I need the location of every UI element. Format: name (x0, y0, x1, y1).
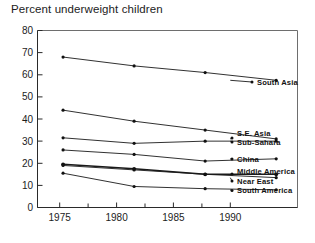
leader-dot-middle-america (231, 173, 234, 176)
data-point (204, 159, 207, 162)
leader-dot-sub-sahara (231, 141, 234, 144)
y-tick-label-20: 20 (22, 158, 34, 169)
data-point (204, 173, 207, 176)
line-chart-plot: 0 10 20 30 40 50 60 70 80 1975 1980 1985… (0, 0, 315, 243)
leader-line-south-asia (230, 80, 252, 82)
data-point (61, 109, 64, 112)
leader-dot-south-america (231, 189, 234, 192)
series-line (63, 57, 276, 80)
series-label-south-america: South America (237, 186, 293, 195)
data-point (61, 148, 64, 151)
leader-dot-south-asia (251, 81, 254, 84)
series-label-china: China (237, 155, 259, 164)
y-tick-label-30: 30 (22, 136, 34, 147)
data-point (61, 55, 64, 58)
y-axis-tick-labels: 0 10 20 30 40 50 60 70 80 (22, 25, 34, 213)
series-south-asia (61, 55, 277, 81)
data-point (204, 71, 207, 74)
leader-dot-se-asia (231, 137, 234, 140)
series-label-middle-america: Middle America (237, 167, 296, 176)
leader-dot-china (231, 157, 234, 160)
data-point (133, 120, 136, 123)
series-label-sub-sahara: Sub-Sahara (237, 138, 281, 147)
series-label-south-asia: South Asia (257, 78, 299, 87)
y-tick-label-50: 50 (22, 91, 34, 102)
data-point (133, 142, 136, 145)
x-axis-ticks (60, 203, 231, 208)
y-tick-label-40: 40 (22, 114, 34, 125)
data-point (61, 136, 64, 139)
data-point (133, 168, 136, 171)
x-tick-label-1985: 1985 (162, 212, 185, 223)
data-point (133, 153, 136, 156)
y-tick-label-60: 60 (22, 69, 34, 80)
data-point (133, 185, 136, 188)
data-point (204, 187, 207, 190)
data-point (133, 64, 136, 67)
x-tick-label-1975: 1975 (49, 212, 72, 223)
y-axis-ticks (38, 31, 43, 208)
y-tick-label-80: 80 (22, 25, 34, 36)
data-point (61, 172, 64, 175)
chart-container: Percent underweight children 0 10 20 30 … (0, 0, 315, 243)
series-annotations: South Asia S.E. Asia Sub-Sahara China Mi… (230, 78, 298, 196)
x-tick-label-1990: 1990 (219, 212, 242, 223)
data-point (275, 176, 278, 179)
x-axis-tick-labels: 1975 1980 1985 1990 (49, 212, 242, 223)
y-tick-label-0: 0 (27, 202, 33, 213)
x-tick-label-1980: 1980 (105, 212, 128, 223)
y-tick-label-10: 10 (22, 180, 34, 191)
data-point (61, 164, 64, 167)
data-point (204, 140, 207, 143)
data-point (275, 157, 278, 160)
series-label-se-asia: S.E. Asia (237, 129, 271, 138)
data-point (204, 128, 207, 131)
series-label-near-east: Near East (237, 177, 274, 186)
leader-dot-near-east (231, 180, 234, 183)
y-tick-label-70: 70 (22, 47, 34, 58)
